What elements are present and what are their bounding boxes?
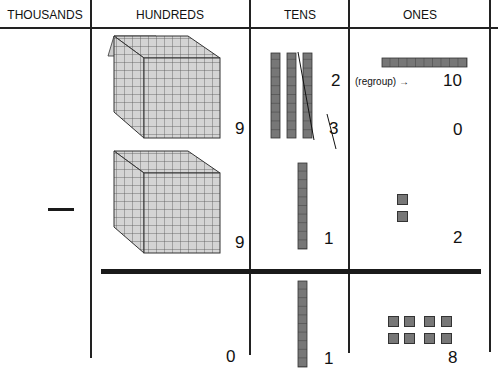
header-thousands: THOUSANDS [0,8,90,22]
column-divider-tens [348,0,350,353]
ones-regrouped-rod [381,57,471,69]
difference-hundreds-digit: 0 [226,347,235,367]
sum-rule [101,269,481,274]
unit-cube [404,316,415,327]
unit-cube [397,194,408,205]
minus-sign-icon [48,208,74,211]
subtrahend-hundreds-digit: 9 [235,233,244,253]
header-ones: ONES [350,8,490,22]
strikethrough-tens-icon [326,113,338,151]
minuend-hundreds-digit: 9 [235,119,244,139]
tens-rods-minuend [268,50,328,150]
unit-cube [441,316,452,327]
regroup-label: (regroup) → [355,76,409,87]
header-tens: TENS [250,8,350,22]
unit-cube [397,211,408,222]
difference-ones-digit: 8 [448,348,457,368]
minuend-ones-crossed-digit: 0 [453,120,462,140]
difference-tens-digit: 1 [324,349,333,369]
unit-cube [388,316,399,327]
unit-cube [388,333,399,344]
tens-rod-difference [297,280,311,370]
tens-rod-subtrahend [297,162,311,252]
column-divider-thousands [90,0,92,358]
unit-cube [424,316,435,327]
unit-cube [424,333,435,344]
header-hundreds: HUNDREDS [90,8,250,22]
column-divider-ones [489,0,491,352]
subtrahend-tens-digit: 1 [324,229,333,249]
minuend-ones-new-digit: 10 [443,71,462,91]
minuend-tens-new-digit: 2 [331,71,340,91]
unit-cube [404,333,415,344]
subtrahend-ones-digit: 2 [453,228,462,248]
unit-cube [441,333,452,344]
